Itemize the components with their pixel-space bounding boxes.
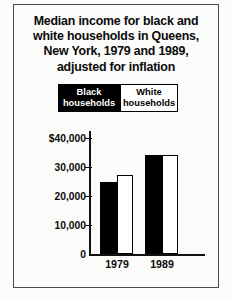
bar-1989-white-households	[162, 155, 179, 254]
y-axis-label-30000: 30,000	[55, 162, 87, 173]
x-axis-line	[89, 254, 205, 256]
y-axis-label-20000: 20,000	[55, 191, 87, 202]
y-axis-label-0: 0	[80, 249, 86, 260]
y-axis-label-10000: 10,000	[55, 220, 87, 231]
bar-1989-black-households	[145, 155, 162, 254]
x-axis-label-1989: 1989	[141, 258, 183, 270]
x-axis-label-1979: 1979	[96, 258, 138, 270]
bar-1979-white-households	[117, 175, 134, 254]
plot-area: $40,000 30,000 20,000 10,000 0 1979 1989	[0, 0, 232, 300]
y-axis-line	[89, 131, 91, 255]
y-axis-label-40000: $40,000	[49, 133, 86, 144]
bar-1979-black-households	[100, 182, 117, 255]
chart-figure: Median income for black and white househ…	[0, 0, 232, 300]
y-tick-40000	[85, 138, 92, 139]
